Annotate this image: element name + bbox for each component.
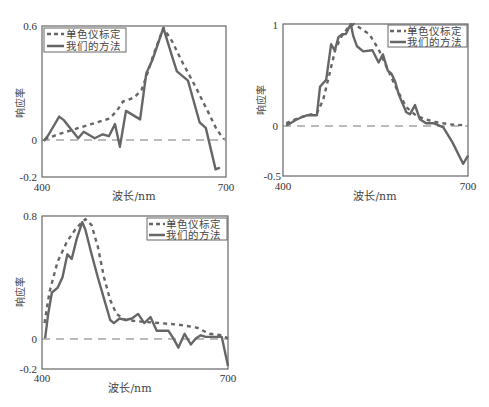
chart-2-ytick-zero: 0	[273, 120, 279, 132]
chart-3-xtick-left: 400	[34, 372, 51, 384]
chart-2-xtick-left: 400	[275, 180, 292, 192]
chart-3-legend: 单色仪标定 我们的方法	[147, 218, 227, 241]
legend-solid-label: 我们的方法	[166, 229, 221, 241]
chart-3-xtick-right: 700	[220, 372, 237, 384]
chart-2-ytick-top: 1	[273, 19, 279, 31]
chart-2-xtick-right: 700	[460, 180, 477, 192]
chart-2-legend: 单色仪标定 我们的方法	[388, 25, 467, 48]
chart-3-ylabel: 响应率	[14, 277, 26, 307]
chart-2-ylabel: 响应率	[255, 85, 267, 115]
chart-panel-3: 0.8 0 -0.2 400 700 波长/nm 响应率 单色仪标定 我们的方法	[0, 0, 245, 407]
legend-solid-label: 我们的方法	[407, 36, 462, 48]
chart-2-xlabel: 波长/nm	[353, 190, 397, 203]
chart-3-ytick-top: 0.8	[23, 210, 37, 222]
solid-series-line	[45, 222, 228, 366]
chart-3-series	[45, 219, 229, 366]
chart-3-svg: 0.8 0 -0.2 400 700 波长/nm 响应率 单色仪标定 我们的方法	[0, 0, 245, 407]
chart-3-xlabel: 波长/nm	[108, 382, 152, 395]
chart-3-ytick-zero: 0	[32, 333, 38, 345]
